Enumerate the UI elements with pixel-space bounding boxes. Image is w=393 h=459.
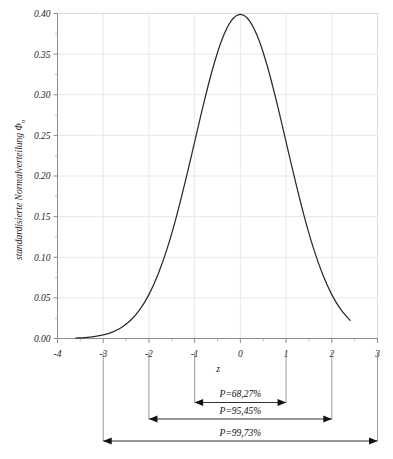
y-tick-label: 0.35 — [34, 50, 51, 60]
y-tick-label: 0.20 — [34, 171, 51, 181]
y-tick-label: 0.30 — [34, 90, 51, 100]
y-axis-title-group: standardisierte Normalverteilung Φn — [14, 119, 26, 260]
y-tick-label: 0.00 — [34, 334, 51, 344]
y-axis-title-text: standardisierte Normalverteilung Φ — [14, 123, 24, 260]
chart-canvas: 0.000.050.100.150.200.250.300.350.40 -4-… — [0, 0, 393, 459]
x-tick-label: -4 — [54, 349, 62, 359]
y-tick-label: 0.25 — [34, 131, 51, 141]
annotation-label: P=99,73% — [219, 428, 262, 438]
normal-distribution-chart: 0.000.050.100.150.200.250.300.350.40 -4-… — [0, 0, 393, 459]
chart-background — [0, 0, 393, 459]
y-axis-title: standardisierte Normalverteilung Φn — [14, 119, 26, 260]
y-tick-label: 0.40 — [34, 9, 51, 19]
y-tick-label: 0.15 — [34, 212, 51, 222]
y-tick-label: 0.05 — [34, 293, 51, 303]
annotation-label: P=95,45% — [219, 406, 262, 416]
x-tick-label: 0 — [238, 349, 243, 359]
x-axis-title: z — [215, 364, 220, 374]
y-axis-tick-labels: 0.000.050.100.150.200.250.300.350.40 — [34, 9, 51, 344]
y-tick-label: 0.10 — [34, 253, 51, 263]
annotation-label: P=68,27% — [219, 389, 262, 399]
